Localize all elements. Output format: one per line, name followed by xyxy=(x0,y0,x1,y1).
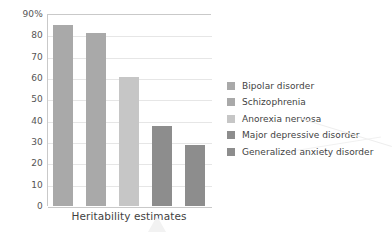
legend-swatch-icon xyxy=(227,82,235,90)
y-axis-tick-label: 30 xyxy=(0,138,43,147)
legend-swatch-icon xyxy=(227,115,235,123)
legend-item: Bipolar disorder xyxy=(227,78,375,93)
bar xyxy=(119,77,139,206)
y-axis-tick-label: 40 xyxy=(0,116,43,125)
y-axis-tick-label: 90% xyxy=(0,10,43,19)
legend-item: Generalized anxiety disorder xyxy=(227,144,375,159)
legend-label: Schizophrenia xyxy=(242,97,306,107)
chart-legend: Bipolar disorderSchizophreniaAnorexia ne… xyxy=(227,78,375,161)
y-axis-tick-label: 80 xyxy=(0,31,43,40)
bar xyxy=(86,33,106,206)
legend-label: Bipolar disorder xyxy=(242,81,314,91)
y-axis-tick-label: 60 xyxy=(0,74,43,83)
bars-group xyxy=(47,14,211,206)
y-axis-tick-label: 0 xyxy=(0,202,43,211)
bar xyxy=(185,145,205,206)
legend-item: Anorexia nervosa xyxy=(227,111,375,126)
legend-swatch-icon xyxy=(227,148,235,156)
y-axis: 0102030405060708090% xyxy=(0,14,43,206)
legend-label: Anorexia nervosa xyxy=(242,114,321,124)
legend-item: Schizophrenia xyxy=(227,95,375,110)
y-axis-tick-label: 70 xyxy=(0,52,43,61)
legend-item: Major depressive disorder xyxy=(227,128,375,143)
y-axis-tick-label: 50 xyxy=(0,95,43,104)
y-axis-tick-label: 10 xyxy=(0,180,43,189)
bar xyxy=(152,126,172,206)
legend-label: Generalized anxiety disorder xyxy=(242,147,373,157)
x-axis-title: Heritability estimates xyxy=(47,210,211,222)
y-axis-tick-label: 20 xyxy=(0,159,43,168)
legend-swatch-icon xyxy=(227,131,235,139)
legend-swatch-icon xyxy=(227,98,235,106)
gridline xyxy=(48,207,212,208)
legend-label: Major depressive disorder xyxy=(242,130,360,140)
bar xyxy=(53,25,73,206)
